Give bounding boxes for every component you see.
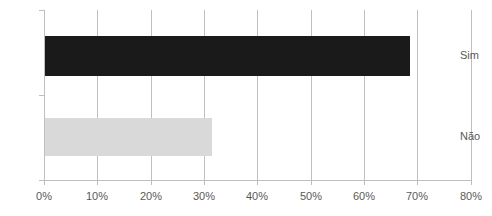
bar-sim <box>44 36 410 76</box>
x-axis-label-20: 20% <box>140 190 162 202</box>
x-axis-label-10: 10% <box>86 190 108 202</box>
x-axis-tick-70 <box>417 181 418 185</box>
x-axis-label-0: 0% <box>36 190 52 202</box>
x-axis-label-30: 30% <box>193 190 215 202</box>
category-label-nao: Não <box>454 130 492 142</box>
plot-area <box>44 10 471 180</box>
x-axis-tick-10 <box>97 181 98 185</box>
bar-nao <box>44 118 212 156</box>
x-axis-tick-80 <box>471 181 472 185</box>
x-axis-tick-50 <box>311 181 312 185</box>
gridline-80 <box>471 10 472 180</box>
x-axis-label-60: 60% <box>353 190 375 202</box>
x-axis-label-70: 70% <box>406 190 428 202</box>
x-axis-label-80: 80% <box>460 190 482 202</box>
bar-chart: Sim Não 0% 10% 20% 30% 40% 50% 60% 70% 8… <box>0 0 492 216</box>
y-axis-tick-top <box>39 10 44 11</box>
x-axis-tick-30 <box>204 181 205 185</box>
y-axis-tick-mid <box>39 95 44 96</box>
gridline-70 <box>417 10 418 180</box>
x-axis-label-50: 50% <box>300 190 322 202</box>
x-axis-tick-60 <box>364 181 365 185</box>
x-axis-tick-0 <box>44 181 45 185</box>
x-axis-tick-20 <box>151 181 152 185</box>
x-axis-tick-40 <box>257 181 258 185</box>
category-label-sim: Sim <box>454 49 492 61</box>
y-axis-line <box>44 10 45 180</box>
x-axis-label-40: 40% <box>246 190 268 202</box>
x-axis-line <box>44 180 472 181</box>
